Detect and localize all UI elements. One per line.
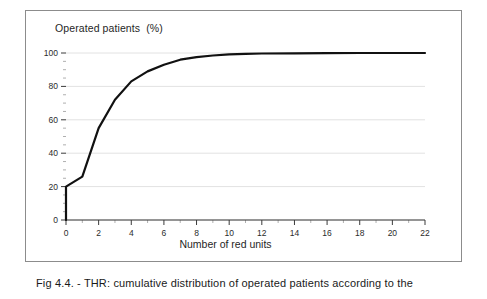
grid-lines	[66, 53, 425, 220]
svg-text:40: 40	[49, 148, 59, 158]
y-axis-tick-labels: 020406080100	[44, 48, 58, 225]
svg-text:20: 20	[388, 228, 398, 238]
x-axis-ticks	[66, 220, 425, 225]
svg-text:18: 18	[355, 228, 365, 238]
svg-text:22: 22	[420, 228, 430, 238]
svg-text:4: 4	[129, 228, 134, 238]
figure-page: Operated patients (%) 020406080100 02468…	[0, 0, 487, 299]
x-axis-tick-labels: 0246810121416182022	[64, 228, 430, 238]
x-axis-label: Number of red units	[0, 238, 487, 250]
svg-text:80: 80	[49, 81, 59, 91]
line-chart-svg: 020406080100 0246810121416182022	[25, 10, 462, 262]
svg-text:14: 14	[290, 228, 300, 238]
svg-text:100: 100	[44, 48, 58, 58]
svg-text:8: 8	[194, 228, 199, 238]
svg-text:10: 10	[224, 228, 234, 238]
svg-text:2: 2	[96, 228, 101, 238]
svg-text:16: 16	[322, 228, 332, 238]
svg-text:6: 6	[162, 228, 167, 238]
x-axis-label-text: Number of red units	[179, 238, 271, 250]
data-series-line	[66, 53, 425, 220]
svg-text:0: 0	[53, 215, 58, 225]
chart-plot-area: 020406080100 0246810121416182022	[25, 10, 462, 262]
svg-text:0: 0	[64, 228, 69, 238]
svg-text:20: 20	[49, 182, 59, 192]
figure-caption: Fig 4.4. - THR: cumulative distribution …	[36, 276, 464, 291]
svg-text:12: 12	[257, 228, 267, 238]
svg-text:60: 60	[49, 115, 59, 125]
